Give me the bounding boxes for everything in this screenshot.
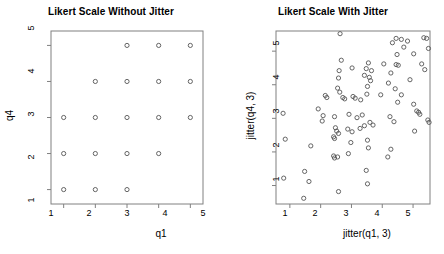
xaxis-title-with-jitter: jitter(q1, 3) <box>222 228 444 239</box>
yaxis-title-with-jitter: jitter(q4, 3) <box>245 78 256 154</box>
xtick-label-4-left: 4 <box>158 208 172 218</box>
xtick-label-3-right: 3 <box>339 208 353 218</box>
ytick-label-2-right: 2 <box>271 138 281 152</box>
xtick-label-5-left: 5 <box>196 208 210 218</box>
ytick-label-3-left: 3 <box>26 107 36 121</box>
ytick-label-1-right: 1 <box>271 172 281 186</box>
ytick-label-4-right: 4 <box>271 70 281 84</box>
ytick-label-2-left: 2 <box>26 150 36 164</box>
panel-without-jitter: Likert Scale Without Jitter 1 2 3 4 5 1 … <box>0 0 222 254</box>
plot-area-without-jitter <box>0 0 222 254</box>
panel-with-jitter: Likert Scale With Jitter 1 2 3 4 5 1 2 3… <box>222 0 444 254</box>
figure-canvas: Likert Scale Without Jitter 1 2 3 4 5 1 … <box>0 0 444 254</box>
ytick-label-5-right: 5 <box>271 36 281 50</box>
xtick-label-4-right: 4 <box>370 208 384 218</box>
xtick-label-2-right: 2 <box>308 208 322 218</box>
xtick-label-2-left: 2 <box>82 208 96 218</box>
yaxis-title-without-jitter: q4 <box>4 93 15 139</box>
ytick-label-3-right: 3 <box>271 104 281 118</box>
xtick-label-5-right: 5 <box>401 208 415 218</box>
xtick-label-1-right: 1 <box>278 208 292 218</box>
xtick-label-1-left: 1 <box>44 208 58 218</box>
xtick-label-3-left: 3 <box>120 208 134 218</box>
ytick-label-5-left: 5 <box>26 21 36 35</box>
ytick-label-1-left: 1 <box>26 193 36 207</box>
ytick-label-4-left: 4 <box>26 64 36 78</box>
